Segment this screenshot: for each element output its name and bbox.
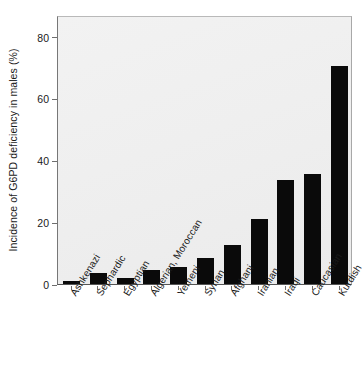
bar [277,180,294,284]
y-axis: 020406080 [26,0,57,378]
y-axis-title-text: Incidence of G6PD deficiency in males (%… [7,48,19,251]
y-axis-tick: 0 [43,278,57,292]
x-axis: AshkenaziSephardicEgyptianAlgerian, Moro… [57,286,352,378]
y-axis-title: Incidence of G6PD deficiency in males (%… [0,0,26,300]
bar [304,174,321,284]
y-axis-tick-label: 40 [37,155,52,167]
y-axis-tick: 60 [37,92,57,106]
y-axis-tick-label: 0 [43,279,52,291]
y-axis-tick-label: 80 [37,32,52,44]
plot-area [57,16,352,285]
bar-series [58,17,351,284]
y-axis-tick: 40 [37,154,57,168]
y-axis-tick: 80 [37,31,57,45]
y-axis-tick-label: 60 [37,93,52,105]
y-axis-tick: 20 [37,216,57,230]
y-axis-tick-label: 20 [37,217,52,229]
